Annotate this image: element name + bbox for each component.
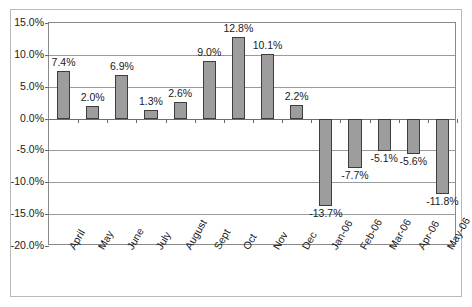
bar-value-label: 9.0% [191,47,227,58]
x-axis-tick-mark [340,119,341,123]
bar[interactable] [115,75,128,119]
y-axis-tick-label: -15.0% [11,208,44,218]
x-axis-tick-mark [428,119,429,123]
bar-value-label: 2.0% [75,92,111,103]
x-axis-tick-mark [166,119,167,123]
bar[interactable] [378,119,391,151]
y-axis-tick-label: 0.0% [20,113,44,123]
y-axis-tick-label: 5.0% [20,81,44,91]
x-axis-tick-mark [78,119,79,123]
y-axis-tick-label: -20.0% [11,240,44,250]
y-axis-tick-label: 15.0% [14,17,44,27]
bar-value-label: 10.1% [249,40,285,51]
bar-value-label: -7.7% [337,170,373,181]
x-axis-tick-mark [107,119,108,123]
bar[interactable] [261,54,274,118]
bar-value-label: -11.8% [424,196,460,207]
x-axis-tick-mark [224,119,225,123]
bar[interactable] [436,119,449,194]
bar[interactable] [57,71,70,118]
x-axis-tick-mark [399,119,400,123]
bar[interactable] [144,110,157,118]
bar-value-label: 2.6% [162,88,198,99]
bar-value-label: 7.4% [45,57,81,68]
x-axis-tick-mark [282,119,283,123]
plot-area: 7.4%2.0%6.9%1.3%2.6%9.0%12.8%10.1%2.2%-1… [48,22,456,245]
bar[interactable] [232,37,245,119]
x-axis-tick-mark [253,119,254,123]
y-axis-tick-label: -5.0% [17,144,44,154]
x-axis-tick-mark [136,119,137,123]
bar[interactable] [86,106,99,119]
y-axis-tick-label: -10.0% [11,176,44,186]
x-axis-tick-mark [195,119,196,123]
bar[interactable] [319,119,332,206]
bar[interactable] [348,119,361,168]
x-axis-tick-mark [457,119,458,123]
bar[interactable] [407,119,420,155]
y-axis-labels: 15.0%10.0%5.0%0.0%-5.0%-10.0%-15.0%-20.0… [0,22,44,245]
bar-value-label: 6.9% [104,61,140,72]
bar-value-label: 2.2% [279,91,315,102]
chart-container: 15.0%10.0%5.0%0.0%-5.0%-10.0%-15.0%-20.0… [0,0,472,307]
bar-value-label: -13.7% [308,208,344,219]
bar-value-label: 12.8% [220,23,256,34]
y-axis-tick-label: 10.0% [14,49,44,59]
bars-layer: 7.4%2.0%6.9%1.3%2.6%9.0%12.8%10.1%2.2%-1… [49,23,455,244]
bar[interactable] [174,102,187,119]
x-axis-tick-mark [370,119,371,123]
bar[interactable] [290,105,303,119]
x-axis-tick-mark [311,119,312,123]
bar[interactable] [203,61,216,118]
x-axis-category-labels: AprilMayJuneJulyAugustSeptOctNovDecJan-0… [48,246,456,304]
bar-value-label: -5.6% [395,156,431,167]
